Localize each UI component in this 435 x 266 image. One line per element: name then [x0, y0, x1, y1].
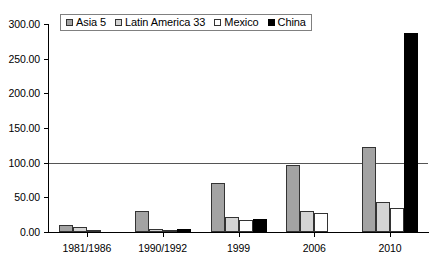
- bar[interactable]: [376, 202, 390, 232]
- legend-item[interactable]: Mexico: [214, 17, 258, 28]
- y-axis-tick-mark: [44, 128, 48, 129]
- y-axis-tick-mark: [44, 93, 48, 94]
- x-axis-tick-mark: [390, 233, 391, 237]
- bar-group: [211, 24, 267, 232]
- y-axis-tick-mark: [44, 232, 48, 233]
- legend-item-label: Latin America 33: [125, 17, 205, 28]
- y-axis: 0.0050.00100.00150.00200.00250.00300.00: [0, 0, 44, 266]
- bar-group: [286, 24, 342, 232]
- legend-item-label: Mexico: [224, 17, 258, 28]
- y-axis-tick-mark: [44, 197, 48, 198]
- legend-item[interactable]: China: [268, 17, 306, 28]
- bar-group: [59, 24, 115, 232]
- legend-item-label: China: [278, 17, 306, 28]
- legend-swatch-icon: [115, 19, 122, 26]
- bar-group: [362, 24, 418, 232]
- x-axis-tick-mark: [87, 233, 88, 237]
- bar-group: [135, 24, 191, 232]
- y-axis-tick-mark: [44, 24, 48, 25]
- bar[interactable]: [59, 225, 73, 232]
- x-axis-tick-mark: [163, 233, 164, 237]
- legend-swatch-icon: [214, 19, 221, 26]
- legend-swatch-icon: [268, 19, 275, 26]
- x-axis-tick-label: 1981/1986: [63, 242, 112, 254]
- bar[interactable]: [404, 33, 418, 232]
- bar[interactable]: [211, 183, 225, 232]
- bar[interactable]: [314, 213, 328, 232]
- y-axis-tick-label: 50.00: [14, 192, 40, 203]
- y-axis-tick-label: 200.00: [8, 88, 40, 99]
- bar[interactable]: [286, 165, 300, 232]
- bar[interactable]: [390, 208, 404, 232]
- y-axis-tick-label: 100.00: [8, 157, 40, 168]
- y-axis-tick-label: 300.00: [8, 19, 40, 30]
- bar[interactable]: [362, 147, 376, 232]
- x-axis-tick-label: 2010: [379, 242, 402, 254]
- bar[interactable]: [300, 211, 314, 232]
- legend-item-label: Asia 5: [76, 17, 106, 28]
- x-axis-tick-label: 1999: [227, 242, 250, 254]
- legend-item[interactable]: Latin America 33: [115, 17, 205, 28]
- x-axis-tick-mark: [239, 233, 240, 237]
- legend-swatch-icon: [66, 19, 73, 26]
- bar[interactable]: [253, 219, 267, 232]
- bar[interactable]: [239, 220, 253, 232]
- y-axis-tick-label: 250.00: [8, 53, 40, 64]
- y-axis-tick-label: 0.00: [20, 227, 40, 238]
- y-axis-tick-mark: [44, 59, 48, 60]
- plot-area: [49, 24, 428, 232]
- y-axis-tick-mark: [44, 163, 48, 164]
- legend: Asia 5Latin America 33MexicoChina: [60, 14, 312, 31]
- bar-chart: 0.0050.00100.00150.00200.00250.00300.00 …: [0, 0, 435, 266]
- x-axis-tick-label: 2006: [303, 242, 326, 254]
- bar[interactable]: [225, 217, 239, 232]
- y-axis-tick-label: 150.00: [8, 123, 40, 134]
- x-axis-tick-label: 1990/1992: [138, 242, 187, 254]
- bar[interactable]: [135, 211, 149, 232]
- legend-item[interactable]: Asia 5: [66, 17, 106, 28]
- x-axis-tick-mark: [314, 233, 315, 237]
